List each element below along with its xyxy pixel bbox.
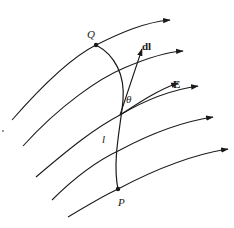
point-q — [94, 43, 98, 47]
label-e: E — [173, 78, 180, 90]
label-l: l — [102, 133, 105, 145]
point-p — [116, 187, 120, 191]
path-l — [96, 45, 123, 189]
label-q: Q — [87, 28, 95, 40]
label-p: P — [117, 196, 125, 208]
field-line-5 — [68, 149, 228, 217]
electric-field-diagram: Q P dl E θ l — [0, 0, 234, 228]
label-dl: dl — [142, 40, 151, 52]
label-theta: θ — [126, 93, 132, 105]
stray-dot — [2, 130, 4, 132]
